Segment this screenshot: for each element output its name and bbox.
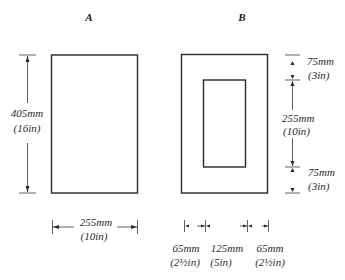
arrow-right-icon [201,225,205,228]
panel-b-left-margin-mm: 65mm [173,242,200,254]
panel-b-left-margin-in: (2½in) [170,256,200,269]
panel-b-inner-height-mm: 255mm [282,112,314,124]
arrow-right-icon [264,225,268,228]
panel-b-bottom-margin-in: (3in) [308,180,330,193]
arrow-up-icon [291,81,295,86]
panel-a-height-in: (16in) [14,122,41,135]
panel-b-top-margin-in: (3in) [308,69,330,82]
panel-b-title: B [237,11,245,23]
panel-a-height-dimension: 405mm (16in) [11,55,43,193]
panel-a-title: A [84,11,92,23]
dimension-diagram: A 405mm (16in) 255mm (10in) B [0,0,345,280]
panel-b-horizontal-dimensions: 65mm (2½in) 125mm (5in) 65mm (2½in) [170,220,285,269]
panel-b-inner-width-mm: 125mm [211,242,243,254]
panel-b-right-margin-mm: 65mm [257,242,284,254]
arrow-right-icon [131,225,137,229]
panel-a-width-in: (10in) [81,230,108,243]
panel-b-vertical-dimensions: 75mm (3in) 255mm (10in) 75mm (3in) [282,55,335,193]
arrow-up-icon [291,61,295,65]
panel-b: B 75mm (3in) 255mm (10in) 75mm [170,11,335,269]
panel-a: A 405mm (16in) 255mm (10in) [11,11,138,243]
panel-b-right-margin-in: (2½in) [255,256,285,269]
panel-a-width-mm: 255mm [80,216,112,228]
arrow-down-icon [291,161,295,166]
arrow-up-icon [291,168,295,172]
arrow-up-icon [26,56,30,62]
arrow-left-icon [248,225,252,228]
panel-b-bottom-margin-mm: 75mm [308,166,335,178]
arrow-down-icon [26,186,30,192]
panel-b-inner-width-in: (5in) [210,256,232,269]
arrow-down-icon [291,75,295,79]
panel-b-top-margin-mm: 75mm [307,55,334,67]
arrow-left-icon [185,225,189,228]
arrow-right-icon [243,225,247,228]
panel-a-rectangle [52,55,138,193]
arrow-left-icon [53,225,59,229]
panel-a-height-mm: 405mm [11,107,43,119]
arrow-down-icon [291,188,295,192]
arrow-left-icon [206,225,210,228]
panel-b-inner-rectangle [204,80,246,167]
panel-b-outer-rectangle [182,55,268,194]
panel-a-width-dimension: 255mm (10in) [53,216,138,243]
panel-b-inner-height-in: (10in) [283,125,310,138]
